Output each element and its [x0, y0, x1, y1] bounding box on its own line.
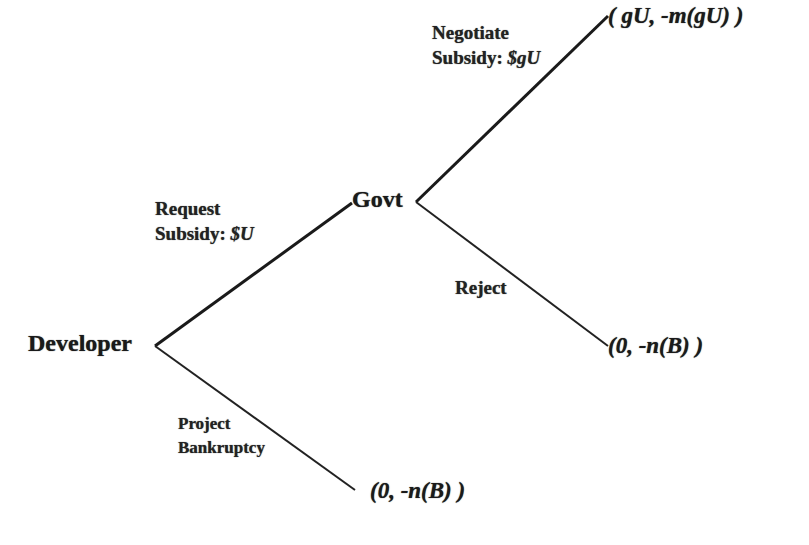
subsidy-prefix: Subsidy: — [432, 47, 508, 68]
subsidy-value: $U — [231, 223, 254, 244]
edge-label-negotiate-line1: Negotiate — [432, 20, 540, 45]
edge-label-bankruptcy-line2: Bankruptcy — [178, 436, 265, 460]
edge-label-negotiate: Negotiate Subsidy: $gU — [432, 20, 540, 70]
edge-label-negotiate-line2: Subsidy: $gU — [432, 45, 540, 70]
payoff-reject: (0, -n(B) ) — [608, 333, 703, 359]
edge-label-request: Request Subsidy: $U — [155, 196, 254, 246]
edge-reject — [416, 202, 608, 346]
node-developer: Developer — [28, 330, 132, 357]
edge-label-request-line2: Subsidy: $U — [155, 221, 254, 246]
game-tree-edges — [0, 0, 809, 545]
node-govt: Govt — [352, 186, 403, 213]
payoff-negotiate: ( gU, -m(gU) ) — [608, 3, 743, 29]
payoff-bankruptcy: (0, -n(B) ) — [370, 478, 465, 504]
edge-label-bankruptcy-line1: Project — [178, 412, 265, 436]
subsidy-value: $gU — [508, 47, 541, 68]
edge-label-request-line1: Request — [155, 196, 254, 221]
subsidy-prefix: Subsidy: — [155, 223, 231, 244]
edge-label-bankruptcy: Project Bankruptcy — [178, 412, 265, 460]
edge-label-reject: Reject — [455, 275, 507, 300]
